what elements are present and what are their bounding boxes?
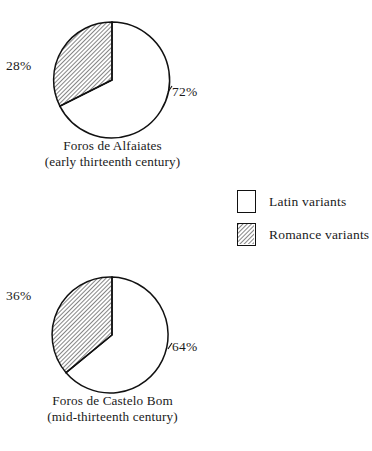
pie-chart-figure: 28% 72% Foros de Alfaiates (early thirte… <box>0 0 372 451</box>
pie-chart-alfaiates: 28% 72% <box>0 14 225 138</box>
hatch-pattern-icon <box>238 224 254 244</box>
pie-svg-alfaiates <box>0 14 225 138</box>
caption-subtitle: (mid-thirteenth century) <box>0 409 225 425</box>
empty-square-swatch-icon <box>237 190 256 213</box>
caption-subtitle: (early thirteenth century) <box>0 154 225 170</box>
chart-legend: Latin variants Romance variants <box>237 185 372 251</box>
chart-block-alfaiates: 28% 72% Foros de Alfaiates (early thirte… <box>0 14 225 138</box>
caption-title: Foros de Alfaiates <box>63 138 162 153</box>
pie-chart-castelo-bom: 36% 64% <box>0 269 225 393</box>
slice-percent-label-romance: 36% <box>6 289 31 303</box>
pie-svg-castelo-bom <box>0 269 225 393</box>
chart-block-castelo-bom: 36% 64% Foros de Castelo Bom (mid-thirte… <box>0 269 225 393</box>
slice-percent-label-latin: 72% <box>172 85 197 99</box>
chart-caption-castelo-bom: Foros de Castelo Bom (mid-thirteenth cen… <box>0 393 225 424</box>
legend-item-latin-variants: Latin variants <box>237 185 372 218</box>
chart-caption-alfaiates: Foros de Alfaiates (early thirteenth cen… <box>0 138 225 169</box>
legend-item-romance-variants: Romance variants <box>237 218 372 251</box>
slice-percent-label-romance: 28% <box>6 59 31 73</box>
caption-title: Foros de Castelo Bom <box>52 393 173 408</box>
slice-percent-label-latin: 64% <box>172 340 197 354</box>
legend-item-label: Romance variants <box>269 227 369 243</box>
legend-item-label: Latin variants <box>269 194 346 210</box>
hatched-square-swatch-icon <box>237 223 256 246</box>
